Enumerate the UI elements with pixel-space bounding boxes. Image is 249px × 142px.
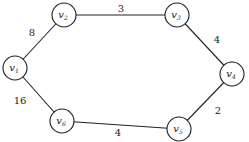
node-v3: v3 — [165, 3, 189, 27]
graph-diagram: 8342416 v1v2v3v4v5v6 — [0, 0, 249, 142]
node-v1: v1 — [3, 56, 27, 80]
node-v4: v4 — [220, 62, 244, 86]
edge-weight-label: 8 — [29, 27, 35, 38]
edge-weight-label: 2 — [215, 105, 221, 116]
nodes-layer: v1v2v3v4v5v6 — [3, 3, 244, 141]
edges-layer — [15, 15, 232, 129]
node-v2: v2 — [52, 3, 76, 27]
edge-weight-label: 4 — [115, 127, 121, 138]
edge-weight-label: 4 — [214, 34, 220, 45]
node-v5: v5 — [167, 117, 191, 141]
node-v6: v6 — [50, 109, 74, 133]
edge-weight-label: 16 — [14, 95, 27, 106]
edge-weight-label: 3 — [118, 3, 124, 14]
